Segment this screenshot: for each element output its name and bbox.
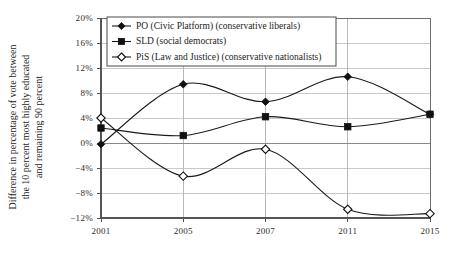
y-tick-label-0: 0%: [80, 138, 93, 148]
y-tick-label-12: 12%: [76, 63, 94, 73]
chart-legend: PO (Civic Platform) (conservative libera…: [107, 17, 336, 66]
y-tick-label-4: 4%: [80, 113, 93, 123]
y-axis-title: Difference in percentage of vote between…: [7, 44, 44, 209]
data-point-3-2005: [179, 172, 187, 180]
x-axis-tick-labels: 20012005200720112015: [91, 226, 439, 236]
line-chart: 20%16%12%8%4%0%−4%−8%−12% 20012005200720…: [0, 0, 449, 255]
data-point-2-2005: [180, 132, 186, 138]
legend-label-3: PiS (Law and Justice) (conservative nati…: [136, 52, 321, 63]
x-tick-label-2005: 2005: [174, 226, 193, 236]
y-tick-label--4: −4%: [75, 163, 93, 173]
y-axis-title-line-2: the 10 percent most highly educated: [20, 55, 31, 200]
y-tick-label-16: 16%: [76, 38, 94, 48]
data-point-3-2015: [426, 209, 434, 217]
x-tick-label-2001: 2001: [91, 226, 110, 236]
y-tick-label-20: 20%: [76, 13, 94, 23]
y-tick-label--8: −8%: [75, 188, 93, 198]
data-point-2-2007: [262, 114, 268, 120]
legend-entry-1[interactable]: PO (Civic Platform) (conservative libera…: [112, 21, 300, 32]
data-point-2-2001: [98, 125, 104, 131]
data-point-3-2007: [261, 145, 269, 153]
data-point-2-2011: [345, 124, 351, 130]
data-point-3-2011: [344, 205, 352, 213]
legend-label-2: SLD (social democrats): [136, 36, 226, 47]
data-point-1-2005: [179, 80, 187, 88]
y-axis-title-line-1: Difference in percentage of vote between: [7, 44, 18, 209]
y-axis-title-line-3: and remaining 90 percent: [33, 76, 44, 178]
y-tick-label--12: −12%: [70, 213, 93, 223]
x-tick-label-2011: 2011: [338, 226, 357, 236]
x-tick-label-2007: 2007: [256, 226, 275, 236]
data-point-1-2007: [262, 98, 270, 106]
legend-entry-3[interactable]: PiS (Law and Justice) (conservative nati…: [112, 52, 321, 63]
data-point-2-2015: [427, 111, 433, 117]
x-tick-label-2015: 2015: [420, 226, 439, 236]
legend-label-1: PO (Civic Platform) (conservative libera…: [136, 21, 300, 32]
legend-marker-filled-square: [118, 38, 124, 44]
y-tick-label-8: 8%: [80, 88, 93, 98]
chart-container: 20%16%12%8%4%0%−4%−8%−12% 20012005200720…: [0, 0, 449, 255]
y-axis-tick-labels: 20%16%12%8%4%0%−4%−8%−12%: [70, 13, 93, 223]
data-point-1-2011: [344, 73, 352, 81]
